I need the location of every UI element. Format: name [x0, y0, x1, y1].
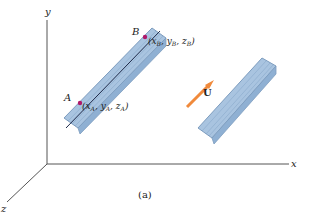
point-b-coords: (xB, yB, zB)	[148, 36, 195, 47]
vector-u-label: U	[203, 87, 212, 98]
segment-ab	[66, 31, 160, 128]
point-a-coords: (xA, yA, zA)	[82, 101, 129, 112]
point-b-label: B	[131, 26, 139, 37]
x-axis-label: x	[291, 158, 297, 169]
figure-caption: (a)	[138, 189, 152, 200]
right-rod	[187, 58, 276, 144]
point-a-label: A	[63, 92, 71, 103]
diagram-canvas: y x z A (xA, yA, zA) B (xB, yB, zB) U (a…	[0, 0, 312, 216]
y-axis-label: y	[44, 6, 51, 17]
z-axis-label: z	[0, 203, 7, 214]
z-axis	[7, 164, 47, 202]
point-b-marker	[143, 35, 147, 39]
